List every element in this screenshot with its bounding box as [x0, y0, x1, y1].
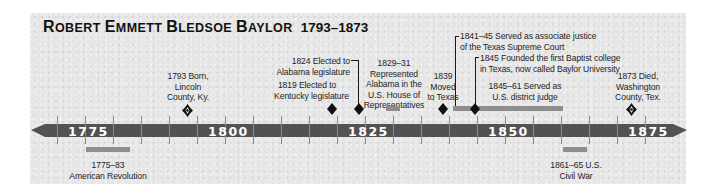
ornament-icon — [182, 104, 193, 117]
tick-1835 — [421, 116, 422, 144]
event-born-label: 1793 Born,LincolnCounty, Ky. — [158, 71, 218, 103]
tick-1870 — [617, 116, 618, 144]
revolution-span-bar — [86, 147, 130, 152]
title-word-4: BAYLOR — [236, 20, 293, 35]
tick-1785 — [141, 116, 142, 144]
tick-1820 — [337, 116, 338, 144]
title-word-1: ROBERT — [43, 20, 101, 35]
tick-1860 — [561, 116, 562, 144]
event-judge-label: 1845–61 Served asU.S. district judge — [480, 81, 570, 102]
axis-label-1850: 1850 — [488, 124, 529, 140]
event-college-label: 1845 Founded the first Baptist collegein… — [480, 53, 620, 74]
tick-1780 — [113, 116, 114, 144]
event-revolution-label: 1775–83American Revolution — [68, 160, 148, 181]
tick-1845 — [477, 116, 478, 144]
event-alabama-label: 1824 Elected toAlabama legislature — [262, 56, 350, 77]
event-kentucky-label: 1819 Elected toKentucky legislature — [265, 80, 349, 101]
axis-label-1800: 1800 — [208, 124, 249, 140]
title-word-3: BLEDSOE — [166, 20, 232, 35]
diamond-icon — [438, 103, 448, 115]
event-house-label: 1829–31RepresentedAlabama in theU.S. Hou… — [360, 58, 428, 111]
event-civil-war-label: 1861–65 U.S.Civil War — [545, 160, 607, 181]
event-justice-label: 1841–45 Served as associate justiceof th… — [460, 31, 596, 52]
diamond-icon — [470, 103, 480, 115]
tick-1865 — [589, 116, 590, 144]
ornament-icon — [626, 103, 637, 116]
title-years: 1793–1873 — [301, 20, 369, 35]
college-leader-v — [475, 57, 476, 105]
tick-1815 — [309, 116, 310, 144]
tick-1805 — [253, 116, 254, 144]
justice-leader-v — [455, 36, 456, 107]
tick-1790 — [169, 116, 170, 144]
tick-1795 — [197, 116, 198, 144]
title-word-2: EMMETT — [105, 20, 163, 35]
axis-label-1825: 1825 — [348, 124, 389, 140]
civil-war-span-bar — [563, 147, 587, 152]
tick-1830 — [393, 116, 394, 144]
tick-1840 — [449, 116, 450, 144]
alabama-leader-v — [358, 60, 359, 105]
tick-1810 — [281, 116, 282, 144]
event-died-label: 1873 Died,WashingtonCounty, Tex. — [602, 71, 674, 103]
diamond-icon — [327, 103, 337, 115]
tick-1855 — [533, 116, 534, 144]
axis-label-1875: 1875 — [628, 124, 669, 140]
axis-label-1775: 1775 — [68, 124, 109, 140]
house-span-bar — [386, 106, 400, 111]
page-title: ROBERT EMMETT BLEDSOE BAYLOR 1793–1873 — [43, 18, 368, 36]
tick-1770 — [57, 116, 58, 144]
